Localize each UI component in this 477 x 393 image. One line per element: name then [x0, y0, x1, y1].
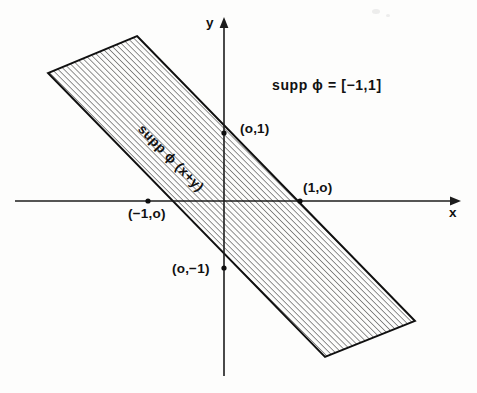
- point-label-neg1-0: (−1,o): [128, 207, 166, 221]
- y-axis-arrowhead: [220, 17, 229, 28]
- y-axis-label: y: [206, 16, 214, 30]
- scan-artifact: [386, 14, 390, 17]
- x-axis-label: x: [449, 206, 457, 220]
- scan-artifact: [372, 9, 380, 14]
- point-label-1-0: (1,o): [303, 181, 333, 195]
- point-label-0-neg1: (o,−1): [172, 262, 210, 276]
- math-figure: y x supp ϕ = [−1,1] supp ϕ (x+y) (o,1) (…: [0, 0, 477, 393]
- diagram-canvas: [0, 0, 477, 393]
- support-formula: supp ϕ = [−1,1]: [272, 78, 382, 92]
- point-label-0-1: (o,1): [240, 122, 270, 136]
